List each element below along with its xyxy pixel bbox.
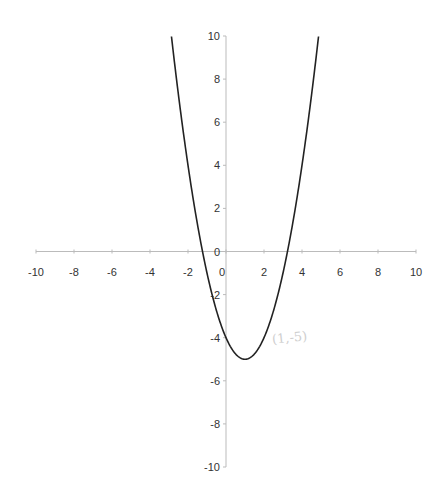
x-tick-label: 0 <box>219 266 225 278</box>
y-tick-label: -4 <box>210 332 220 344</box>
x-tick-label: 8 <box>375 266 381 278</box>
y-tick-label: 2 <box>214 202 220 214</box>
y-tick-label: -8 <box>210 418 220 430</box>
y-tick-label: -10 <box>204 461 220 473</box>
parabola-chart: -10-8-6-4-202468101086420-2-4-6-8-10 <box>0 0 444 503</box>
y-tick-label: 10 <box>208 30 220 42</box>
x-tick-label: -6 <box>107 266 117 278</box>
x-tick-label: -2 <box>183 266 193 278</box>
y-tick-label: 6 <box>214 116 220 128</box>
axes <box>36 36 416 467</box>
y-tick-label: 0 <box>214 246 220 258</box>
x-tick-label: 2 <box>261 266 267 278</box>
x-tick-label: -10 <box>28 266 44 278</box>
x-tick-label: -8 <box>69 266 79 278</box>
parabola-curve <box>171 37 318 360</box>
x-tick-label: 4 <box>299 266 305 278</box>
x-tick-label: -4 <box>145 266 155 278</box>
x-tick-label: 10 <box>410 266 422 278</box>
y-tick-label: 8 <box>214 73 220 85</box>
y-tick-label: -6 <box>210 375 220 387</box>
x-tick-label: 6 <box>337 266 343 278</box>
y-tick-label: 4 <box>214 159 220 171</box>
